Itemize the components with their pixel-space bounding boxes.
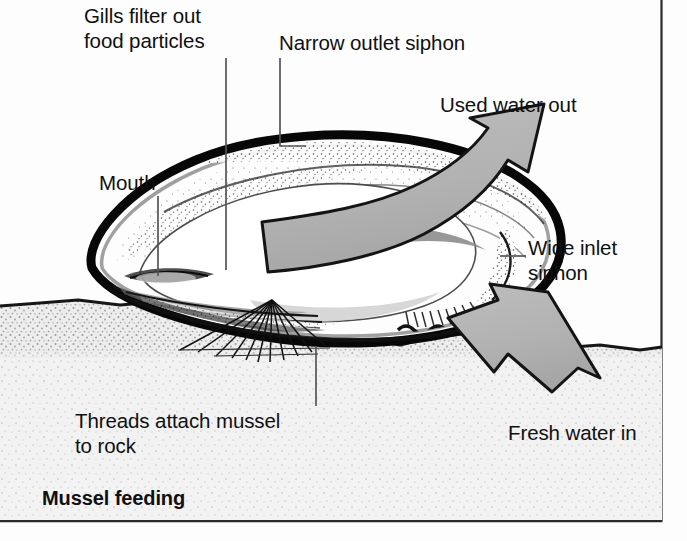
label-wide-inlet-siphon: Wide inlet siphon (528, 235, 617, 285)
label-threads-attach-mussel: Threads attach mussel to rock (75, 408, 280, 458)
label-used-water-out: Used water out (440, 92, 576, 117)
mussel-feeding-figure: Gills filter out food particles Narrow o… (0, 0, 687, 541)
label-fresh-water-in: Fresh water in (508, 420, 636, 445)
label-narrow-outlet-siphon: Narrow outlet siphon (279, 30, 465, 55)
label-gills: Gills filter out food particles (84, 3, 205, 53)
label-mouth: Mouth (99, 170, 155, 195)
figure-caption: Mussel feeding (42, 486, 185, 511)
